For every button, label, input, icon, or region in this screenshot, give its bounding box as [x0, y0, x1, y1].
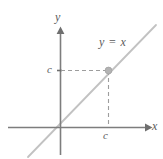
point-marker-c-c: [105, 67, 112, 74]
y-axis-value-label-c: c: [47, 64, 52, 75]
y-axis-arrow-icon: [57, 27, 65, 35]
graph-canvas: [0, 0, 163, 159]
y-axis-label: y: [55, 11, 60, 23]
x-axis-label: x: [152, 120, 157, 132]
equation-label: y = x: [99, 36, 126, 48]
x-axis-value-label-c: c: [103, 130, 108, 141]
figure-graph-y-equals-x: y x y = x c c: [0, 0, 163, 159]
line-y-equals-x: [28, 25, 156, 157]
